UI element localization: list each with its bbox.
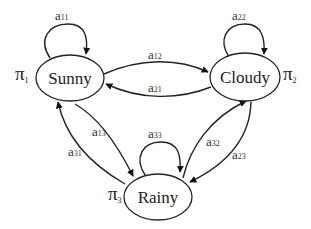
edge-sunny-rainy	[75, 104, 133, 176]
edge-sunny-sunny	[45, 24, 87, 58]
markov-chain-diagram: Sunny Cloudy Rainy π1 π2 π3 a11 a22 a33 …	[0, 0, 311, 229]
label-a21: a21	[148, 80, 162, 95]
state-sunny: Sunny	[36, 55, 104, 101]
edge-cloudy-cloudy	[224, 24, 264, 57]
label-a23: a23	[232, 147, 246, 162]
edge-rainy-rainy	[140, 142, 180, 175]
initial-prob-rainy: π3	[108, 183, 122, 205]
state-label-cloudy: Cloudy	[220, 68, 271, 87]
edge-sunny-cloudy	[104, 62, 208, 74]
label-a13: a13	[92, 124, 106, 139]
initial-prob-cloudy: π2	[283, 63, 297, 85]
state-label-sunny: Sunny	[48, 69, 92, 88]
label-a12: a12	[148, 47, 162, 62]
label-a32: a32	[206, 134, 220, 149]
state-cloudy: Cloudy	[210, 53, 280, 101]
label-a33: a33	[148, 126, 162, 141]
label-a22: a22	[232, 8, 246, 23]
edge-rainy-sunny	[58, 102, 125, 184]
state-rainy: Rainy	[124, 174, 192, 220]
initial-prob-sunny: π1	[15, 63, 29, 85]
label-a11: a11	[55, 8, 68, 23]
state-label-rainy: Rainy	[138, 188, 179, 207]
